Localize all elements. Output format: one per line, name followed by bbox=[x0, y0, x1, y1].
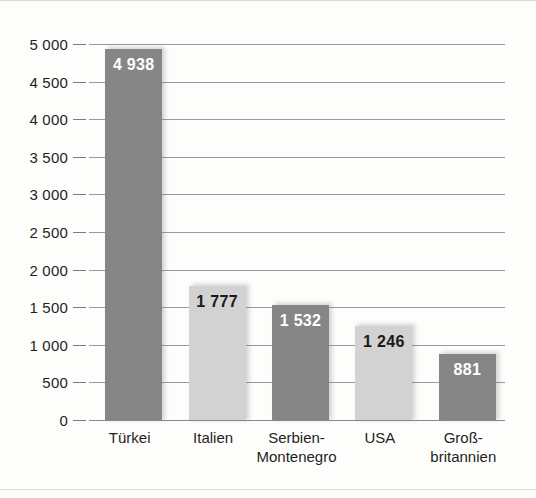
y-axis-tick bbox=[73, 194, 86, 195]
y-axis-tick-label: 2 000 bbox=[4, 261, 68, 278]
y-axis-tick-label: 0 bbox=[4, 412, 68, 429]
x-axis-labels: TürkeiItalienSerbien- MontenegroUSAGroß-… bbox=[88, 428, 505, 488]
y-axis-tick-label: 1 000 bbox=[4, 336, 68, 353]
bar-value-label: 1 532 bbox=[272, 312, 329, 330]
x-axis-category-label: Italien bbox=[165, 428, 260, 447]
gridline bbox=[88, 44, 505, 45]
y-axis-tick-label: 3 500 bbox=[4, 148, 68, 165]
bar-value-label: 4 938 bbox=[105, 56, 162, 74]
y-axis-tick-label: 500 bbox=[4, 374, 68, 391]
y-axis-tick bbox=[73, 232, 86, 233]
y-axis-tick bbox=[73, 382, 86, 383]
y-axis-line bbox=[88, 44, 89, 421]
bar-value-label: 1 777 bbox=[189, 293, 246, 311]
bar[interactable]: 881 bbox=[439, 354, 496, 420]
bar-value-label: 881 bbox=[439, 361, 496, 379]
scan-edge-bottom bbox=[0, 489, 536, 490]
y-axis-tick-label: 2 500 bbox=[4, 224, 68, 241]
y-axis-tick bbox=[73, 420, 86, 421]
y-axis-tick-label: 3 000 bbox=[4, 186, 68, 203]
y-axis-tick bbox=[73, 345, 86, 346]
y-axis-tick bbox=[73, 82, 86, 83]
x-axis-category-label: Groß- britannien bbox=[416, 428, 511, 466]
y-axis-tick bbox=[73, 119, 86, 120]
plot-area: 4 9381 7771 5321 246881 bbox=[88, 44, 505, 420]
bar-value-label: 1 246 bbox=[355, 333, 412, 351]
y-axis-tick bbox=[73, 44, 86, 45]
y-axis-tick bbox=[73, 157, 86, 158]
y-axis-tick bbox=[73, 270, 86, 271]
y-axis-tick-label: 4 500 bbox=[4, 73, 68, 90]
y-axis-tick bbox=[73, 307, 86, 308]
bar-chart: 05001 0001 5002 0002 5003 0003 5004 0004… bbox=[0, 0, 536, 498]
axis-baseline bbox=[88, 420, 505, 421]
y-axis-labels: 05001 0001 5002 0002 5003 0003 5004 0004… bbox=[0, 0, 68, 498]
bar[interactable]: 1 777 bbox=[189, 286, 246, 420]
x-axis-category-label: Türkei bbox=[82, 428, 177, 447]
y-axis-tick-label: 5 000 bbox=[4, 36, 68, 53]
x-axis-category-label: Serbien- Montenegro bbox=[249, 428, 344, 466]
x-axis-category-label: USA bbox=[332, 428, 427, 447]
bar[interactable]: 1 246 bbox=[355, 326, 412, 420]
bar[interactable]: 1 532 bbox=[272, 305, 329, 420]
y-axis-tick-label: 4 000 bbox=[4, 111, 68, 128]
y-axis-tick-label: 1 500 bbox=[4, 299, 68, 316]
bar[interactable]: 4 938 bbox=[105, 49, 162, 420]
scan-edge-top bbox=[0, 0, 536, 1]
